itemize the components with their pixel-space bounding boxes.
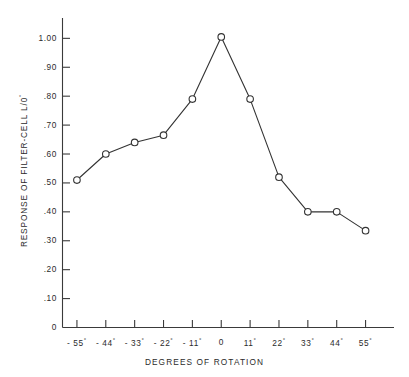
x-tick-value: 22	[272, 337, 282, 347]
plot-area	[0, 0, 409, 377]
x-tick-label: 55°	[342, 337, 390, 348]
y-tick-label: .50	[24, 177, 57, 187]
data-line	[77, 37, 366, 231]
data-point-marker	[160, 132, 167, 139]
y-tick-label: 0	[24, 322, 57, 332]
x-tick-value: 44	[330, 337, 340, 347]
y-tick-label: .90	[24, 62, 57, 72]
y-tick-label: .60	[24, 149, 57, 159]
data-point-marker	[103, 151, 110, 158]
data-markers	[74, 34, 369, 234]
y-axis-ticks	[63, 38, 71, 298]
x-tick-value: 0	[219, 337, 224, 347]
x-axis-ticks	[77, 320, 366, 328]
data-point-marker	[333, 209, 340, 216]
data-point-marker	[74, 177, 81, 184]
data-point-marker	[247, 96, 254, 103]
chart-figure: RESPONSE OF FILTER-CELL L/0° 1.00.90.80.…	[0, 0, 409, 377]
data-point-marker	[218, 34, 225, 41]
x-tick-value: 11	[244, 337, 254, 347]
y-tick-label: .30	[24, 235, 57, 245]
data-point-marker	[131, 139, 138, 146]
data-point-marker	[189, 96, 196, 103]
y-tick-label: .20	[24, 264, 57, 274]
y-tick-label: .80	[24, 91, 57, 101]
x-axis-label: DEGREES OF ROTATION	[0, 357, 409, 367]
x-tick-degree-symbol: °	[369, 337, 372, 343]
y-tick-label: .10	[24, 293, 57, 303]
data-point-marker	[305, 209, 312, 216]
data-point-marker	[362, 227, 369, 234]
x-tick-value: 33	[301, 337, 311, 347]
y-tick-label: 1.00	[24, 33, 57, 43]
axis-lines	[63, 18, 395, 328]
y-tick-label: .40	[24, 206, 57, 216]
y-tick-label: .70	[24, 120, 57, 130]
x-tick-value: 55	[359, 337, 369, 347]
data-point-marker	[276, 174, 283, 181]
